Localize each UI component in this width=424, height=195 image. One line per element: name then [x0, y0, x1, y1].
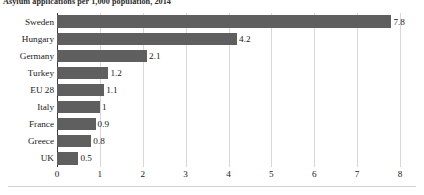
bar-value-label: 4.2	[239, 34, 250, 44]
category-label: EU 28	[2, 85, 54, 95]
category-label: Germany	[2, 51, 54, 61]
bar	[57, 15, 391, 27]
bar	[57, 152, 78, 164]
x-tick-label: 4	[219, 169, 239, 180]
bar-value-label: 1	[102, 102, 107, 112]
bar-value-label: 7.8	[393, 17, 404, 27]
category-label: France	[2, 119, 54, 129]
category-label: UK	[2, 153, 54, 163]
x-tick-label: 2	[133, 169, 153, 180]
x-tick-label: 0	[47, 169, 67, 180]
x-tick-label: 7	[347, 169, 367, 180]
bar-value-label: 0.9	[98, 119, 109, 129]
x-tick-label: 5	[261, 169, 281, 180]
bar	[57, 101, 100, 113]
x-tick-label: 6	[304, 169, 324, 180]
plot-area: 7.84.22.11.21.110.90.80.5	[57, 13, 400, 167]
category-label: Sweden	[2, 17, 54, 27]
bar-value-label: 0.5	[80, 153, 91, 163]
bar-value-label: 1.1	[106, 85, 117, 95]
category-label: Turkey	[2, 68, 54, 78]
category-label: Hungary	[2, 34, 54, 44]
bar-value-label: 0.8	[93, 136, 104, 146]
bar-value-label: 1.2	[110, 68, 121, 78]
chart-title: Asylum applications per 1,000 population…	[3, 0, 171, 6]
bottom-divider	[8, 186, 416, 187]
bar	[57, 118, 96, 130]
category-axis-labels: SwedenHungaryGermanyTurkeyEU 28ItalyFran…	[0, 13, 54, 167]
bar	[57, 135, 91, 147]
x-tick-label: 3	[176, 169, 196, 180]
bar-chart-figure: Asylum applications per 1,000 population…	[0, 0, 424, 195]
category-label: Italy	[2, 102, 54, 112]
gridline-8	[400, 13, 401, 167]
category-label: Greece	[2, 136, 54, 146]
bar	[57, 84, 104, 96]
bar	[57, 33, 237, 45]
bar	[57, 67, 108, 79]
x-tick-label: 8	[390, 169, 410, 180]
bar-value-label: 2.1	[149, 51, 160, 61]
x-tick-label: 1	[90, 169, 110, 180]
bar	[57, 50, 147, 62]
